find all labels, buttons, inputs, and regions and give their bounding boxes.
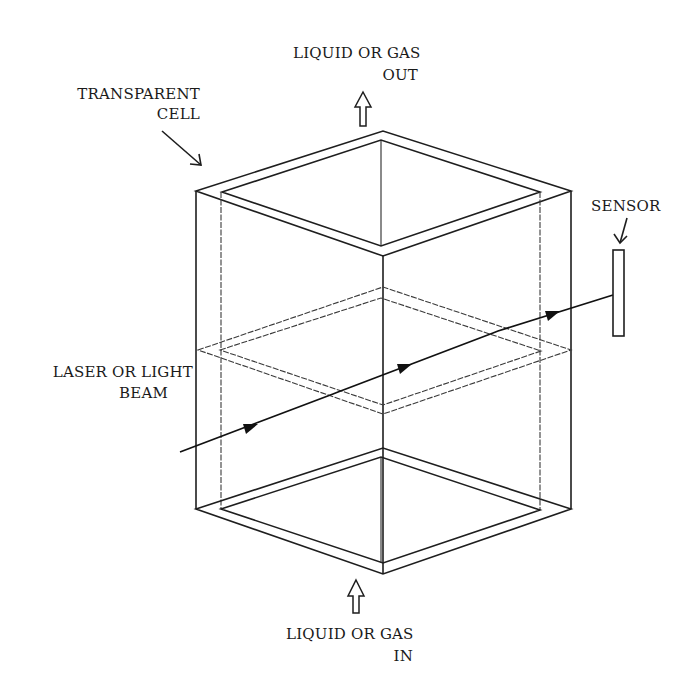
beam-arrowhead-3-icon <box>545 311 560 321</box>
outlet-label-line2: OUT <box>382 66 418 84</box>
beam-arrowhead-2-icon <box>397 364 412 374</box>
cell-top-outer-rim <box>196 131 571 256</box>
transparent-cell-pointer <box>162 131 201 165</box>
transparent-cell-label-line1: TRANSPARENT <box>77 85 200 103</box>
sensor-pointer <box>614 218 627 243</box>
inlet-label-line1: LIQUID OR GAS <box>286 625 414 643</box>
beam-label-line1: LASER OR LIGHT <box>53 363 193 381</box>
transparent-cell <box>196 131 571 574</box>
sensor <box>613 250 624 336</box>
cell-mid-plane-inner <box>220 298 541 405</box>
outlet-arrow-icon <box>355 92 371 126</box>
cell-mid-plane-outer <box>198 287 571 414</box>
inlet-label-line2: IN <box>394 647 413 665</box>
sensor-label: SENSOR <box>591 197 661 215</box>
beam-label-line2: BEAM <box>119 384 168 402</box>
transparent-cell-diagram: TRANSPARENT CELL LIQUID OR GAS OUT SENSO… <box>0 0 697 695</box>
beam-arrowhead-1-icon <box>243 424 258 434</box>
light-beam <box>180 295 613 452</box>
outlet-label-line1: LIQUID OR GAS <box>293 44 421 62</box>
inlet-arrow-icon <box>348 580 364 613</box>
transparent-cell-label-line2: CELL <box>157 105 200 123</box>
